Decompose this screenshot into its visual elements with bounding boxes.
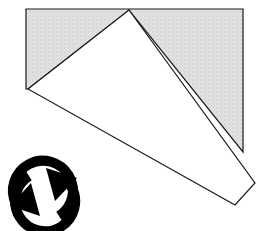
figure-root — [0, 0, 259, 231]
figure-canvas — [0, 0, 259, 231]
